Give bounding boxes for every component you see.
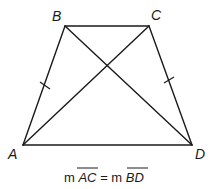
caption-equals: = [97, 170, 112, 185]
vertex-label-B: B [52, 8, 61, 24]
caption-segment-BD: BD [126, 170, 144, 185]
caption-prefix-2: m [111, 170, 125, 185]
caption: m AC = m BD [64, 168, 148, 185]
trapezoid-diagram: B C A D m AC = m BD [0, 0, 215, 189]
vertex-label-A: A [7, 146, 17, 162]
diagonal-BD [65, 26, 192, 145]
vertex-label-D: D [195, 146, 205, 162]
vertex-label-C: C [151, 7, 162, 23]
side-CD [149, 26, 192, 145]
caption-prefix-1: m [64, 170, 78, 185]
diagonal-AC [23, 26, 149, 145]
svg-text:m AC = m BD: m AC = m BD [64, 170, 144, 185]
caption-segment-AC: AC [77, 170, 97, 185]
